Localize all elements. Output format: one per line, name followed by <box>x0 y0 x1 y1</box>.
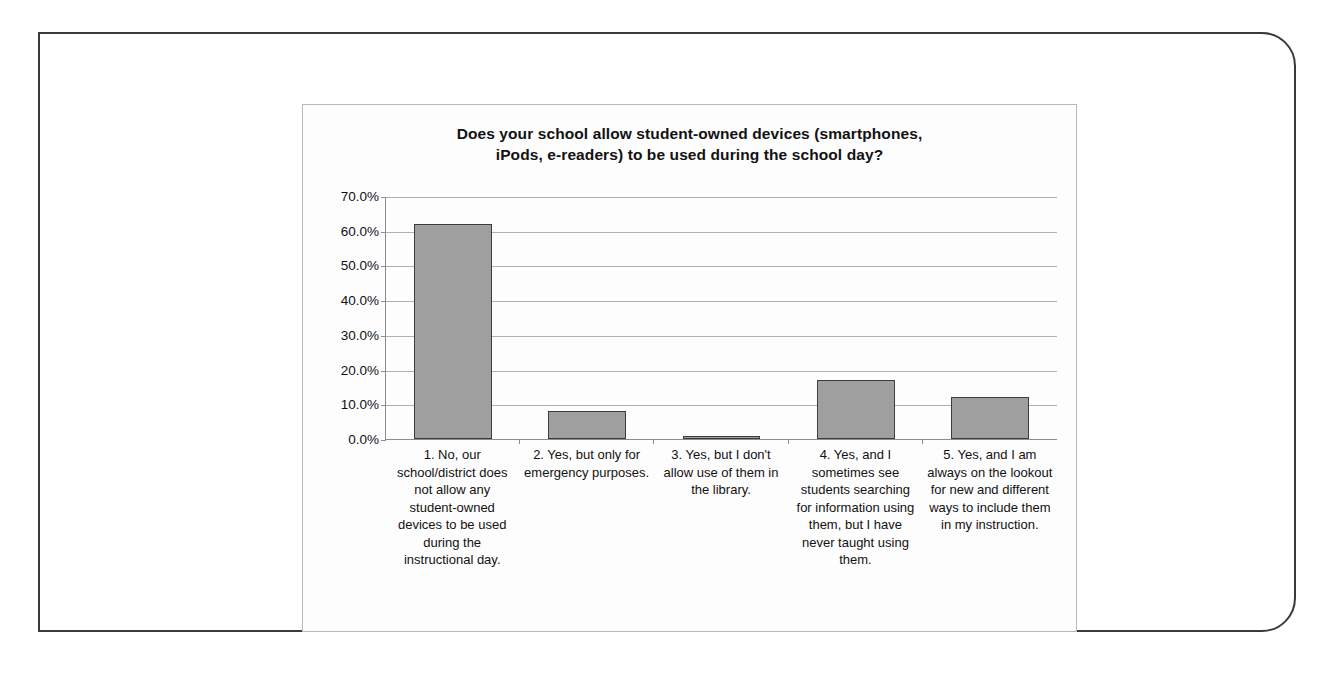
chart-title: Does your school allow student-owned dev… <box>349 123 1030 165</box>
plot-area <box>385 197 1057 440</box>
y-tick-mark <box>381 440 386 441</box>
y-tick-label: 10.0% <box>341 399 379 413</box>
y-tick-label: 30.0% <box>341 329 379 343</box>
bar <box>548 411 626 439</box>
x-category-label: 2. Yes, but only for emergency purposes. <box>519 446 653 569</box>
bar-cell <box>386 197 520 439</box>
x-category-label: 3. Yes, but I don't allow use of them in… <box>654 446 788 569</box>
x-tick-mark <box>519 439 520 444</box>
bar <box>951 397 1029 439</box>
x-category-label: 4. Yes, and I sometimes see students sea… <box>788 446 922 569</box>
y-tick-label: 50.0% <box>341 260 379 274</box>
bar-cell <box>789 197 923 439</box>
chart-title-line-2: iPods, e-readers) to be used during the … <box>349 144 1030 165</box>
x-category-label: 5. Yes, and I am always on the lookout f… <box>923 446 1057 569</box>
scanned-page-frame: Does your school allow student-owned dev… <box>38 32 1296 632</box>
bar-series <box>386 197 1057 439</box>
y-tick-label: 40.0% <box>341 294 379 308</box>
x-tick-mark <box>653 439 654 444</box>
x-axis-category-labels: 1. No, our school/district does not allo… <box>385 446 1057 569</box>
bar <box>817 380 895 439</box>
x-tick-mark <box>788 439 789 444</box>
y-axis-tick-labels: 70.0%60.0%50.0%40.0%30.0%20.0%10.0%0.0% <box>311 197 379 462</box>
y-tick-label: 60.0% <box>341 225 379 239</box>
x-tick-mark <box>922 439 923 444</box>
chart-title-line-1: Does your school allow student-owned dev… <box>349 123 1030 144</box>
bar <box>414 224 492 439</box>
chart-container: Does your school allow student-owned dev… <box>302 104 1077 632</box>
bar-cell <box>923 197 1057 439</box>
y-tick-label: 20.0% <box>341 364 379 378</box>
y-tick-label: 70.0% <box>341 190 379 204</box>
bar-cell <box>520 197 654 439</box>
bar-cell <box>654 197 788 439</box>
plot-wrapper: 70.0%60.0%50.0%40.0%30.0%20.0%10.0%0.0% … <box>303 197 1078 633</box>
y-tick-label: 0.0% <box>348 433 379 447</box>
x-category-label: 1. No, our school/district does not allo… <box>385 446 519 569</box>
gridline <box>386 440 1057 441</box>
bar <box>683 436 761 439</box>
